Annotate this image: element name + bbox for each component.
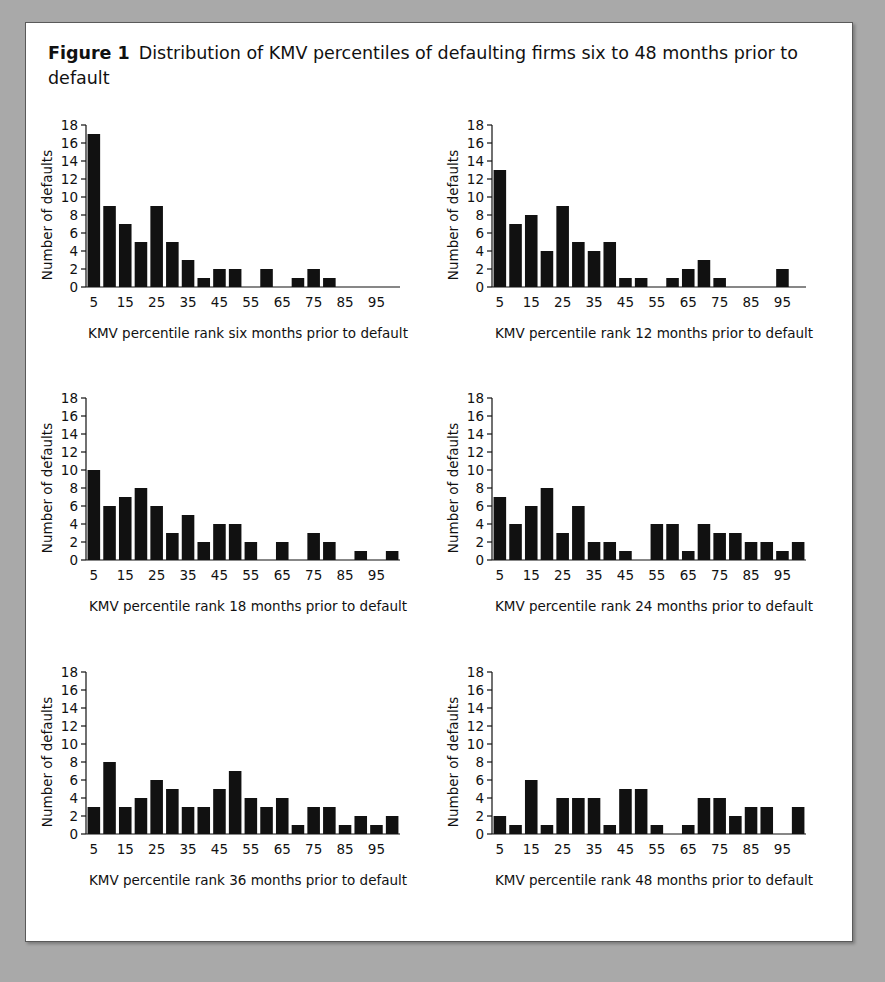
svg-text:25: 25 xyxy=(554,294,571,310)
figure-caption-text: Distribution of KMV percentiles of defau… xyxy=(48,43,798,88)
svg-text:55: 55 xyxy=(242,567,259,583)
plot-area-24-months: Number of defaults 024681012141618515253… xyxy=(440,390,846,602)
svg-text:8: 8 xyxy=(475,753,484,769)
svg-text:16: 16 xyxy=(467,681,484,697)
x-axis-label-48-months: KMV percentile rank 48 months prior to d… xyxy=(462,872,846,888)
svg-text:55: 55 xyxy=(242,294,259,310)
chart-svg-36-months: 0246810121416185152535455565758595 xyxy=(56,664,408,876)
svg-text:0: 0 xyxy=(475,552,484,568)
svg-text:45: 45 xyxy=(211,567,228,583)
svg-text:95: 95 xyxy=(368,294,385,310)
svg-text:35: 35 xyxy=(179,567,196,583)
svg-text:15: 15 xyxy=(523,294,540,310)
svg-text:16: 16 xyxy=(61,681,78,697)
svg-text:45: 45 xyxy=(617,567,634,583)
svg-text:65: 65 xyxy=(274,841,291,857)
svg-text:18: 18 xyxy=(467,390,484,406)
svg-text:25: 25 xyxy=(148,294,165,310)
svg-text:2: 2 xyxy=(475,261,484,277)
svg-text:35: 35 xyxy=(179,294,196,310)
y-axis-label-18-months: Number of defaults xyxy=(36,390,58,586)
svg-text:55: 55 xyxy=(648,841,665,857)
svg-text:0: 0 xyxy=(69,279,78,295)
chart-panel-48-months: Number of defaults 024681012141618515253… xyxy=(440,658,846,931)
svg-text:12: 12 xyxy=(467,717,484,733)
figure-number: Figure 1 xyxy=(48,43,130,63)
svg-text:10: 10 xyxy=(61,462,78,478)
x-axis-label-12-months: KMV percentile rank 12 months prior to d… xyxy=(462,325,846,341)
svg-text:8: 8 xyxy=(69,207,78,223)
svg-text:18: 18 xyxy=(61,664,78,680)
plot-area-18-months: Number of defaults 024681012141618515253… xyxy=(34,390,440,602)
svg-text:0: 0 xyxy=(69,825,78,841)
svg-text:2: 2 xyxy=(69,534,78,550)
svg-text:2: 2 xyxy=(475,807,484,823)
svg-text:10: 10 xyxy=(467,735,484,751)
svg-text:0: 0 xyxy=(475,279,484,295)
y-axis-label-24-months: Number of defaults xyxy=(442,390,464,586)
svg-text:15: 15 xyxy=(117,567,134,583)
chart-svg-18-months: 0246810121416185152535455565758595 xyxy=(56,390,408,602)
chart-svg-12-months: 0246810121416185152535455565758595 xyxy=(462,117,814,329)
x-axis-label-36-months: KMV percentile rank 36 months prior to d… xyxy=(56,872,440,888)
svg-text:16: 16 xyxy=(61,408,78,424)
svg-text:45: 45 xyxy=(211,294,228,310)
svg-text:14: 14 xyxy=(61,699,78,715)
svg-text:6: 6 xyxy=(475,771,484,787)
svg-text:10: 10 xyxy=(467,189,484,205)
svg-text:18: 18 xyxy=(467,664,484,680)
svg-text:55: 55 xyxy=(242,841,259,857)
figure-caption: Figure 1Distribution of KMV percentiles … xyxy=(48,41,818,91)
svg-text:2: 2 xyxy=(69,807,78,823)
svg-text:10: 10 xyxy=(61,735,78,751)
svg-text:75: 75 xyxy=(711,294,728,310)
svg-text:75: 75 xyxy=(711,567,728,583)
svg-text:65: 65 xyxy=(274,294,291,310)
svg-text:65: 65 xyxy=(680,294,697,310)
svg-text:4: 4 xyxy=(69,516,78,532)
svg-text:8: 8 xyxy=(475,480,484,496)
svg-text:25: 25 xyxy=(554,841,571,857)
chart-panel-12-months: Number of defaults 024681012141618515253… xyxy=(440,111,846,384)
svg-text:75: 75 xyxy=(305,841,322,857)
svg-text:35: 35 xyxy=(585,567,602,583)
x-axis-label-six-months: KMV percentile rank six months prior to … xyxy=(56,325,440,341)
chart-panel-36-months: Number of defaults 024681012141618515253… xyxy=(34,658,440,931)
svg-text:95: 95 xyxy=(368,841,385,857)
svg-text:45: 45 xyxy=(617,294,634,310)
svg-text:18: 18 xyxy=(61,117,78,133)
svg-text:12: 12 xyxy=(467,171,484,187)
svg-text:85: 85 xyxy=(742,841,759,857)
svg-text:12: 12 xyxy=(61,171,78,187)
svg-text:6: 6 xyxy=(69,225,78,241)
svg-text:25: 25 xyxy=(554,567,571,583)
svg-text:2: 2 xyxy=(475,534,484,550)
svg-text:75: 75 xyxy=(305,567,322,583)
svg-text:85: 85 xyxy=(742,567,759,583)
svg-text:5: 5 xyxy=(90,841,99,857)
svg-text:12: 12 xyxy=(61,717,78,733)
svg-text:6: 6 xyxy=(69,771,78,787)
svg-text:15: 15 xyxy=(117,841,134,857)
svg-text:4: 4 xyxy=(475,516,484,532)
svg-text:14: 14 xyxy=(467,426,484,442)
chart-svg-six-months: 0246810121416185152535455565758595 xyxy=(56,117,408,329)
svg-text:85: 85 xyxy=(742,294,759,310)
svg-text:65: 65 xyxy=(680,567,697,583)
svg-text:95: 95 xyxy=(774,567,791,583)
svg-text:85: 85 xyxy=(336,294,353,310)
chart-svg-48-months: 0246810121416185152535455565758595 xyxy=(462,664,814,876)
svg-text:2: 2 xyxy=(69,261,78,277)
chart-svg-24-months: 0246810121416185152535455565758595 xyxy=(462,390,814,602)
svg-text:45: 45 xyxy=(211,841,228,857)
svg-text:95: 95 xyxy=(774,841,791,857)
svg-text:25: 25 xyxy=(148,841,165,857)
svg-text:55: 55 xyxy=(648,294,665,310)
svg-text:35: 35 xyxy=(179,841,196,857)
svg-text:6: 6 xyxy=(475,225,484,241)
svg-text:4: 4 xyxy=(69,789,78,805)
svg-text:0: 0 xyxy=(69,552,78,568)
chart-panel-18-months: Number of defaults 024681012141618515253… xyxy=(34,384,440,657)
svg-text:15: 15 xyxy=(117,294,134,310)
svg-text:14: 14 xyxy=(467,153,484,169)
